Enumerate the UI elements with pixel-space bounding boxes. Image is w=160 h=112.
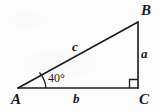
right-angle-marker-at-c xyxy=(130,80,139,89)
vertex-label-a: A xyxy=(11,92,21,107)
triangle-drawing xyxy=(0,0,160,112)
side-c-line xyxy=(18,22,138,88)
triangle-figure: A B C a b c 40° xyxy=(0,0,160,112)
side-label-b: b xyxy=(73,92,80,105)
vertex-label-c: C xyxy=(139,92,149,107)
angle-label-at-a: 40° xyxy=(48,72,65,84)
side-label-a: a xyxy=(141,47,148,60)
side-label-c: c xyxy=(72,40,78,53)
vertex-label-b: B xyxy=(141,3,151,18)
